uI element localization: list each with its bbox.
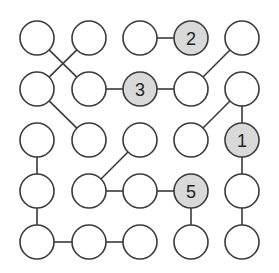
node-circle[interactable] [174, 225, 208, 259]
node-circle[interactable] [174, 123, 208, 157]
empty-node[interactable] [123, 21, 157, 55]
empty-node[interactable] [123, 225, 157, 259]
empty-node[interactable] [20, 225, 54, 259]
empty-node[interactable] [225, 225, 259, 259]
node-circle[interactable] [72, 72, 106, 106]
puzzle-board: 2315 [0, 0, 279, 273]
node-circle[interactable] [123, 174, 157, 208]
node-circle[interactable] [20, 225, 54, 259]
clue-node[interactable]: 1 [225, 123, 259, 157]
node-circle[interactable] [174, 72, 208, 106]
node-circle[interactable] [72, 123, 106, 157]
empty-node[interactable] [123, 174, 157, 208]
node-circle[interactable] [20, 72, 54, 106]
empty-node[interactable] [20, 21, 54, 55]
empty-node[interactable] [174, 123, 208, 157]
bridge-edge[interactable] [203, 101, 230, 128]
puzzle-canvas: 2315 [0, 0, 279, 273]
bridge-edge[interactable] [203, 50, 230, 77]
clue-number: 5 [186, 182, 196, 202]
node-circle[interactable] [123, 225, 157, 259]
bridge-edge[interactable] [49, 101, 77, 128]
empty-node[interactable] [225, 72, 259, 106]
empty-node[interactable] [225, 174, 259, 208]
node-circle[interactable] [72, 21, 106, 55]
clue-number: 2 [186, 29, 196, 49]
empty-node[interactable] [20, 72, 54, 106]
node-circle[interactable] [123, 21, 157, 55]
clue-node[interactable]: 5 [174, 174, 208, 208]
empty-node[interactable] [72, 123, 106, 157]
node-circle[interactable] [225, 72, 259, 106]
empty-node[interactable] [72, 21, 106, 55]
clue-number: 3 [135, 80, 145, 100]
clue-node[interactable]: 3 [123, 72, 157, 106]
node-circle[interactable] [225, 225, 259, 259]
empty-node[interactable] [72, 225, 106, 259]
node-circle[interactable] [72, 225, 106, 259]
empty-node[interactable] [174, 225, 208, 259]
node-circle[interactable] [20, 123, 54, 157]
bridge-edge[interactable] [101, 152, 128, 179]
empty-node[interactable] [72, 72, 106, 106]
empty-node[interactable] [225, 21, 259, 55]
empty-node[interactable] [20, 123, 54, 157]
node-circle[interactable] [20, 21, 54, 55]
node-circle[interactable] [225, 21, 259, 55]
empty-node[interactable] [72, 174, 106, 208]
node-circle[interactable] [123, 123, 157, 157]
empty-node[interactable] [123, 123, 157, 157]
empty-node[interactable] [174, 72, 208, 106]
empty-node[interactable] [20, 174, 54, 208]
clue-number: 1 [237, 131, 247, 151]
node-circle[interactable] [20, 174, 54, 208]
node-circle[interactable] [225, 174, 259, 208]
clue-node[interactable]: 2 [174, 21, 208, 55]
node-circle[interactable] [72, 174, 106, 208]
